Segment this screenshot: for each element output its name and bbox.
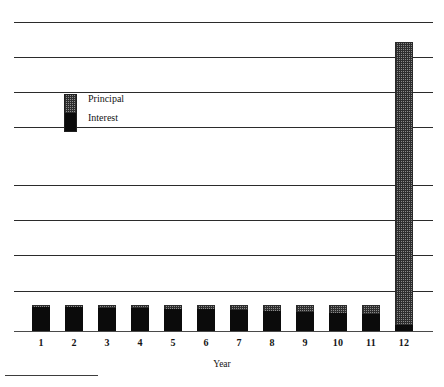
bar-segment-interest — [131, 308, 149, 331]
legend-label-interest: Interest — [88, 112, 118, 123]
legend-swatch-interest — [65, 113, 76, 131]
legend-swatch — [64, 94, 77, 132]
x-tick-label-12: 12 — [391, 337, 417, 348]
bar-segment-principal — [296, 305, 314, 312]
bar-group[interactable] — [98, 305, 116, 331]
bar-group[interactable] — [131, 305, 149, 331]
x-tick-label-2: 2 — [61, 337, 87, 348]
bars-layer — [0, 0, 444, 387]
bar-stack — [32, 305, 50, 331]
bar-stack — [65, 305, 83, 331]
legend-label-principal: Principal — [88, 93, 124, 104]
footer-rule — [5, 375, 98, 376]
bar-stack — [197, 305, 215, 331]
bar-group[interactable] — [164, 305, 182, 331]
bar-segment-interest — [329, 313, 347, 331]
bar-segment-principal — [395, 42, 413, 325]
stacked-bar-chart: 1 2 3 4 5 6 7 8 9 10 11 12 Year Principa… — [0, 0, 444, 387]
bar-stack — [296, 305, 314, 331]
bar-segment-interest — [98, 308, 116, 331]
bar-stack — [329, 305, 347, 331]
bar-group[interactable] — [197, 305, 215, 331]
bar-stack — [98, 305, 116, 331]
bar-stack — [362, 305, 380, 331]
x-tick-label-3: 3 — [94, 337, 120, 348]
x-tick-label-8: 8 — [259, 337, 285, 348]
bar-segment-interest — [32, 307, 50, 331]
bar-group[interactable] — [65, 305, 83, 331]
bar-stack — [164, 305, 182, 331]
bar-stack — [395, 42, 413, 331]
bar-group[interactable] — [362, 305, 380, 331]
x-tick-label-1: 1 — [28, 337, 54, 348]
bar-segment-interest — [362, 314, 380, 331]
bar-group[interactable] — [329, 305, 347, 331]
bar-stack — [263, 305, 281, 331]
bar-stack — [131, 305, 149, 331]
x-tick-label-5: 5 — [160, 337, 186, 348]
x-tick-label-4: 4 — [127, 337, 153, 348]
bar-segment-interest — [230, 310, 248, 331]
bar-group[interactable] — [395, 42, 413, 331]
bar-group[interactable] — [32, 305, 50, 331]
x-axis-title: Year — [0, 359, 444, 369]
x-tick-label-7: 7 — [226, 337, 252, 348]
bar-segment-interest — [65, 307, 83, 331]
bar-segment-interest — [263, 311, 281, 331]
bar-group[interactable] — [230, 305, 248, 331]
bar-group[interactable] — [263, 305, 281, 331]
bar-segment-principal — [362, 305, 380, 314]
bar-segment-interest — [197, 309, 215, 331]
bar-segment-principal — [329, 305, 347, 313]
x-tick-label-11: 11 — [358, 337, 384, 348]
bar-segment-interest — [395, 325, 413, 331]
x-tick-label-9: 9 — [292, 337, 318, 348]
x-tick-label-6: 6 — [193, 337, 219, 348]
legend-swatch-principal — [65, 95, 76, 113]
bar-segment-interest — [164, 309, 182, 331]
bar-group[interactable] — [296, 305, 314, 331]
bar-segment-interest — [296, 312, 314, 331]
x-tick-label-10: 10 — [325, 337, 351, 348]
bar-stack — [230, 305, 248, 331]
